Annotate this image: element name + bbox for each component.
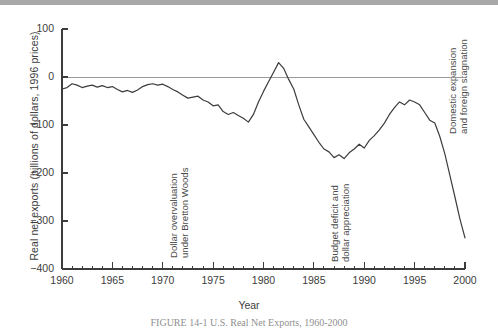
axes-group <box>62 29 465 269</box>
figure-caption: FIGURE 14-1 U.S. Real Net Exports, 1960-… <box>0 317 498 328</box>
y-tick-marks <box>62 29 68 269</box>
data-series-line <box>62 63 465 238</box>
